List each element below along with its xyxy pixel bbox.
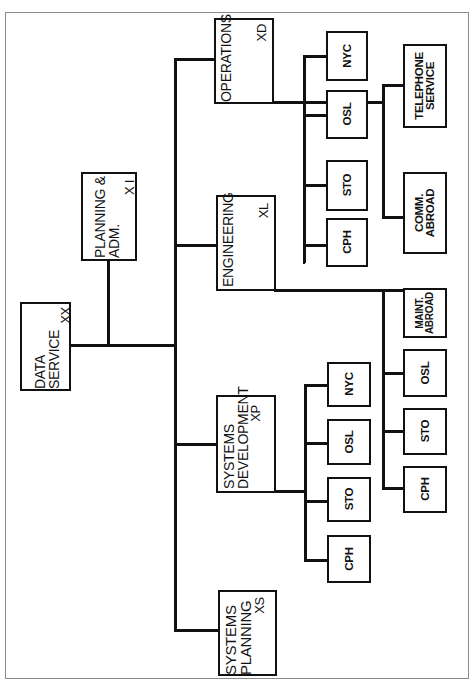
connector-ops-sto — [303, 184, 327, 187]
unit-label: CPH — [342, 230, 353, 253]
connector-ops-nyc — [303, 55, 327, 58]
connector-ops-cph — [303, 244, 327, 247]
label-line-2: SERVICE — [425, 52, 436, 120]
connector-sysdev-osl — [304, 442, 328, 445]
eng-unit-osl[interactable]: OSL — [403, 349, 447, 397]
unit-label: OSL — [344, 431, 355, 454]
connector-sysdev-cph — [304, 559, 328, 562]
node-systems-planning-label: SYSTEMS PLANNING XS — [223, 591, 269, 675]
node-data-service[interactable]: DATA SERVICE XX — [20, 302, 71, 391]
node-systems-development[interactable]: SYSTEMS DEVELOPMENT XP — [216, 395, 276, 493]
connector-eng-out — [274, 289, 404, 292]
node-systems-planning[interactable]: SYSTEMS PLANNING XS — [218, 590, 277, 676]
unit-code: X I — [123, 180, 137, 195]
connector-sysdev-sto — [304, 500, 328, 503]
sysdev-unit-osl[interactable]: OSL — [327, 419, 371, 465]
unit-code: XD — [255, 24, 269, 41]
title-line-2: DEVELOPMENT — [236, 387, 250, 490]
title-line-1: SYSTEMS — [222, 424, 236, 489]
connector-ops-units-bottom — [303, 261, 305, 264]
unit-label: CPH — [420, 477, 431, 500]
node-data-service-label: DATA SERVICE XX — [33, 307, 61, 389]
unit-code: XX — [59, 307, 73, 324]
title-line-1: ENGINEERING — [221, 192, 235, 287]
unit-label: STO — [344, 488, 355, 511]
node-operations[interactable]: OPERATIONS XD — [214, 18, 274, 104]
ops-unit-nyc[interactable]: NYC — [326, 31, 368, 81]
connector-staff — [107, 259, 110, 346]
node-operations-label: OPERATIONS XD — [219, 22, 269, 102]
sysdev-unit-sto[interactable]: STO — [327, 477, 371, 522]
node-planning-adm[interactable]: PLANNING & ADM. X I — [81, 172, 137, 261]
node-systems-development-label: SYSTEMS DEVELOPMENT XP — [222, 399, 268, 489]
unit-code: XL — [257, 203, 271, 218]
connector-ops-units-bus — [303, 55, 306, 263]
connector-eng-bus — [382, 289, 385, 489]
connector-trunk-sysdev — [174, 443, 218, 446]
unit-label: CPH — [344, 547, 355, 570]
label-line-2: ABROAD — [425, 189, 436, 238]
title-line-1: OPERATIONS — [219, 14, 233, 102]
connector-root-to-trunk — [70, 344, 177, 347]
title-line-1: DATA — [33, 307, 47, 389]
title-line-2: ADM. — [107, 178, 121, 258]
node-engineering[interactable]: ENGINEERING XL — [216, 195, 276, 291]
connector-trunk-engineering — [174, 244, 218, 247]
unit-label: OSL — [342, 103, 353, 126]
connector-ops-special-bus — [382, 84, 385, 218]
unit-label: OSL — [420, 362, 431, 385]
connector-ops-osl — [303, 114, 327, 117]
ops-unit-sto[interactable]: STO — [326, 160, 368, 211]
connector-trunk-operations — [174, 58, 216, 61]
connector-sysdev-out — [275, 490, 306, 493]
ops-unit-comm-abroad[interactable]: COMM. ABROAD — [403, 172, 447, 254]
connector-eng-sto — [382, 430, 404, 433]
title-line-1: SYSTEMS — [224, 605, 238, 675]
connector-main-trunk — [174, 58, 177, 630]
unit-label: COMM. ABROAD — [414, 189, 436, 238]
connector-eng-cph — [382, 487, 404, 490]
node-planning-adm-label: PLANNING & ADM. X I — [93, 178, 121, 258]
ops-unit-telephone-service[interactable]: TELEPHONE SERVICE — [403, 44, 447, 128]
unit-label: NYC — [344, 372, 355, 395]
unit-code: XP — [249, 405, 263, 422]
connector-ops-comm — [382, 216, 404, 219]
connector-ops-telephone — [382, 84, 404, 87]
connector-sysdev-nyc — [304, 384, 328, 387]
connector-eng-osl — [382, 372, 404, 375]
connector-sysdev-bus — [304, 384, 307, 561]
sysdev-unit-nyc[interactable]: NYC — [327, 362, 371, 407]
unit-code: XS — [253, 597, 267, 614]
eng-unit-maint-abroad[interactable]: MAINT. ABROAD — [403, 288, 447, 338]
title-line-2: PLANNING — [239, 601, 253, 675]
connector-trunk-sysplan — [174, 629, 219, 632]
sysdev-unit-cph[interactable]: CPH — [327, 535, 371, 583]
unit-label: STO — [342, 174, 353, 197]
unit-label: MAINT. ABROAD — [415, 292, 435, 334]
eng-unit-sto[interactable]: STO — [403, 408, 447, 455]
ops-unit-cph[interactable]: CPH — [326, 218, 368, 267]
unit-label: TELEPHONE SERVICE — [414, 52, 436, 120]
unit-label: STO — [420, 420, 431, 443]
unit-label: NYC — [342, 44, 353, 67]
label-line-2: ABROAD — [425, 292, 435, 334]
title-line-1: PLANNING & — [93, 178, 107, 258]
node-engineering-label: ENGINEERING XL — [221, 199, 271, 287]
eng-unit-cph[interactable]: CPH — [403, 466, 447, 513]
ops-unit-osl[interactable]: OSL — [326, 90, 368, 139]
